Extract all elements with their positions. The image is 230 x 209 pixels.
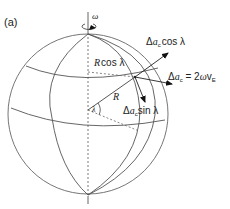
- point-p: [134, 76, 136, 78]
- delta-a-c-equation-label: Δac = 2ωvE: [168, 71, 216, 83]
- omega-label: ω: [92, 11, 98, 21]
- delta-a-c-sin-lambda-label: Δacsin λ: [123, 105, 158, 117]
- rotation-arrow-icon: [82, 24, 96, 30]
- delta-a-c-cos-lambda-label: Δaccos λ: [146, 36, 185, 48]
- lambda-label: λ: [91, 105, 96, 114]
- delta-a-c-arrow: [135, 77, 172, 84]
- left-meridian: [50, 34, 88, 195]
- lambda-angle-arc: [98, 103, 100, 115]
- panel-label: (a): [4, 16, 17, 28]
- upper-latitude-line: [26, 66, 158, 78]
- radius-label: R: [112, 91, 119, 102]
- r-cos-lambda-label: Rcos λ: [93, 57, 124, 68]
- delta-a-c-cos-lambda-arrow: [135, 53, 168, 77]
- coriolis-sphere-diagram: (a) ω Rcos λ R λ Δac: [0, 0, 230, 209]
- vector-arrows: [135, 53, 172, 102]
